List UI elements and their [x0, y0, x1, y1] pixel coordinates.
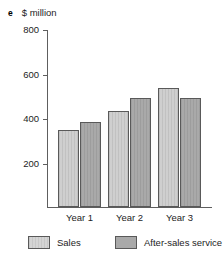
- bar-sales: [58, 130, 79, 207]
- legend-entry-after-sales-service: After-sales service: [115, 236, 222, 249]
- bar-after-sales-service: [180, 98, 201, 207]
- legend-swatch-after-sales-service: [115, 236, 137, 249]
- legend-entry-sales: Sales: [28, 236, 81, 249]
- figure-header: e $ million: [8, 8, 57, 18]
- x-axis-tick-label: Year 2: [116, 213, 143, 223]
- y-axis-tick-label: 400: [23, 114, 39, 124]
- x-axis-tick-label: Year 3: [166, 213, 193, 223]
- y-axis-tick: 200: [43, 164, 47, 165]
- plot-area: 200400600800 Year 1Year 2Year 3: [47, 30, 212, 208]
- x-axis-line: [47, 207, 212, 208]
- y-axis-tick-label: 600: [23, 70, 39, 80]
- y-axis-tick-label: 800: [23, 25, 39, 35]
- chart-legend: Sales After-sales service: [28, 236, 218, 254]
- legend-label-sales: Sales: [57, 238, 81, 248]
- y-axis-tick: 400: [43, 119, 47, 120]
- bar-sales: [158, 88, 179, 207]
- bar-after-sales-service: [130, 98, 151, 207]
- y-axis-line: [47, 30, 48, 208]
- x-axis-tick-label: Year 1: [66, 213, 93, 223]
- y-axis-tick: 600: [43, 75, 47, 76]
- y-axis-tick-label: 200: [23, 159, 39, 169]
- y-axis-unit-label: $ million: [22, 8, 57, 18]
- bar-chart-figure: e $ million 200400600800 Year 1Year 2Yea…: [0, 0, 223, 258]
- bar-after-sales-service: [80, 122, 101, 207]
- legend-label-after-sales-service: After-sales service: [144, 238, 222, 248]
- bar-sales: [108, 111, 129, 207]
- legend-swatch-sales: [28, 236, 50, 249]
- y-axis-tick: 800: [43, 30, 47, 31]
- figure-item-letter: e: [8, 9, 13, 18]
